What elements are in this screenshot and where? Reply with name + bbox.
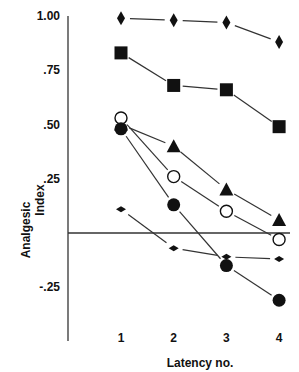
series-segment <box>183 86 218 89</box>
y-tick-labels: 1.00.75.50.25-.25 <box>37 9 61 294</box>
square-marker-icon <box>115 46 128 59</box>
series-segment <box>234 194 271 215</box>
y-tick-label: -.25 <box>39 280 60 294</box>
series-segment <box>234 216 271 236</box>
series-segment <box>130 19 165 20</box>
series-segment <box>181 152 220 184</box>
open-circle-marker-icon <box>168 171 180 183</box>
square-marker-icon <box>167 79 180 92</box>
triangle-marker-icon <box>219 183 233 196</box>
series-segment <box>183 21 218 22</box>
filled-circle-marker-icon <box>167 198 180 211</box>
diamond-marker-icon <box>170 13 178 27</box>
series-segment <box>129 128 165 143</box>
filled-circle-marker-icon <box>220 259 233 272</box>
filled-circle-marker-icon <box>115 122 128 135</box>
series-diamond-large <box>117 11 283 49</box>
open-circle-marker-icon <box>115 112 127 124</box>
square-marker-icon <box>273 120 286 133</box>
open-circle-marker-icon <box>273 234 285 246</box>
series-segment <box>180 212 221 259</box>
series-filled-circle <box>115 122 286 306</box>
y-axis-title-line2: Index <box>33 184 47 216</box>
series-segment <box>126 136 168 197</box>
small-diamond-marker-icon <box>274 256 284 262</box>
series-segment <box>235 257 270 258</box>
open-circle-marker-icon <box>220 205 232 217</box>
series-diamond-small <box>116 206 284 262</box>
square-marker-icon <box>220 83 233 96</box>
series-group <box>114 11 286 307</box>
series-segment <box>128 214 166 242</box>
series-segment <box>235 26 271 39</box>
y-tick-label: .50 <box>43 118 60 132</box>
y-axis-title-line1: Analgesic <box>19 201 33 258</box>
small-diamond-marker-icon <box>169 245 179 251</box>
small-diamond-marker-icon <box>221 254 231 260</box>
triangle-marker-icon <box>272 213 286 226</box>
series-segment <box>234 271 272 296</box>
series-segment <box>183 250 218 256</box>
x-tick-label: 2 <box>170 331 177 345</box>
series-segment <box>181 182 219 207</box>
line-chart: 1.00.75.50.25-.25 1234 Analgesic Index L… <box>0 0 299 372</box>
triangle-marker-icon <box>167 139 181 152</box>
y-tick-label: .25 <box>43 172 60 186</box>
x-axis-title: Latency no. <box>167 356 234 370</box>
diamond-marker-icon <box>117 11 125 25</box>
x-tick-label: 3 <box>223 331 230 345</box>
x-tick-labels: 1234 <box>118 331 283 345</box>
x-tick-label: 4 <box>276 331 283 345</box>
diamond-marker-icon <box>275 35 283 49</box>
small-diamond-marker-icon <box>116 206 126 212</box>
diamond-marker-icon <box>222 16 230 30</box>
series-triangle <box>114 118 286 226</box>
x-tick-label: 1 <box>118 331 125 345</box>
filled-circle-marker-icon <box>273 294 286 307</box>
series-segment <box>129 58 166 81</box>
y-tick-label: .75 <box>43 63 60 77</box>
series-square <box>115 46 286 133</box>
series-segment <box>234 95 272 122</box>
y-tick-label: 1.00 <box>37 9 61 23</box>
